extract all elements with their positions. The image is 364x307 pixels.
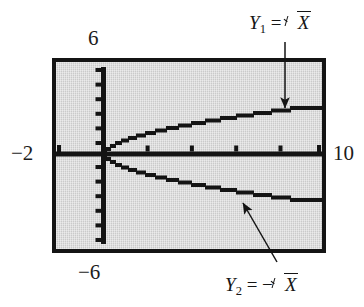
annotation-y1-subscript: 1 [260,22,266,36]
window-xmin-label: −2 [11,143,33,164]
curve-y1-sqrt-x [103,106,322,154]
annotation-y2-radicand: X [284,273,299,294]
window-ymax-label: 6 [88,28,99,49]
radical-sign-icon [284,16,295,26]
annotation-y1: Y1=X [249,10,311,35]
window-ymin-label: −6 [78,262,100,283]
annotation-y1-radical: X [286,10,311,32]
annotation-y1-equals: = [271,12,282,33]
annotation-y1-radicand: X [297,11,312,32]
annotation-y2: Y2=−X [225,272,298,297]
annotation-y2-subscript: 2 [236,284,242,298]
window-xmax-label: 10 [333,143,354,164]
radical-sign-icon [272,278,283,288]
curve-y2-neg-sqrt-x [103,154,322,202]
annotation-y2-sign: − [262,274,273,295]
annotation-y2-equals: = [247,274,258,295]
plot-area [56,62,322,249]
calculator-screen-figure: 6 −6 −2 10 Y1=X Y2=−X [0,0,364,307]
annotation-y1-variable: Y [249,12,260,33]
calculator-screen-frame [52,58,326,253]
annotation-y2-variable: Y [225,274,236,295]
x-axis [56,145,322,157]
annotation-y2-radical: X [273,272,298,294]
